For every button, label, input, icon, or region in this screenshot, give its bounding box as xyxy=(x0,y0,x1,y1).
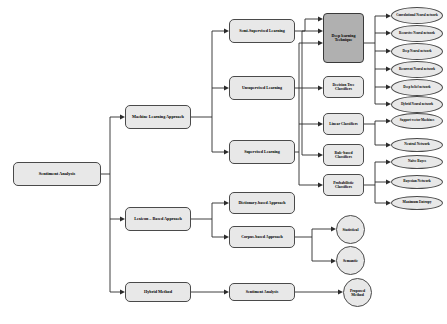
node-label: Machine Learning Approach xyxy=(132,115,184,119)
node-dictionary-based-approach[interactable]: Dictionary-based Approach xyxy=(229,192,295,214)
node-label: Semi-Supervised Learning xyxy=(239,29,284,33)
node-unsupervised-learning[interactable]: Unsupervised Learning xyxy=(229,76,295,100)
node-label: Convolutional Neural network xyxy=(396,14,438,17)
node-semi-supervised-learning[interactable]: Semi-Supervised Learning xyxy=(229,19,295,43)
node-deep-belief-network[interactable]: Deep belief network xyxy=(391,79,443,96)
node-neutral-network[interactable]: Neutral Network xyxy=(391,138,443,152)
node-machine-learning-approach[interactable]: Machine Learning Approach xyxy=(125,105,191,129)
node-label: Dictionary-based Approach xyxy=(238,201,285,205)
node-recursive-neural-network[interactable]: Recursive Neural network xyxy=(391,25,443,42)
node-label: Hybrid Neural network xyxy=(401,103,433,106)
node-label: Support vector Machines xyxy=(400,119,434,122)
node-label: Rule-based Classifiers xyxy=(326,151,361,159)
node-lexicon-based-approach[interactable]: Lexicon – Based Approach xyxy=(125,207,191,231)
node-label: Linear Classifiers xyxy=(329,122,358,126)
node-label: Unsupervised Learning xyxy=(242,86,282,90)
node-label: Deep Neural network xyxy=(402,50,431,53)
node-proposed-method[interactable]: Proposed Method xyxy=(343,278,372,307)
node-support-vector-machines[interactable]: Support vector Machines xyxy=(391,113,443,129)
node-semantic[interactable]: Semantic xyxy=(336,246,365,275)
node-probabilistic-classifiers[interactable]: Probabilistic Classifiers xyxy=(323,174,364,196)
node-label: Naïve Bayes xyxy=(408,160,426,164)
node-corpus-based-approach[interactable]: Corpus-based Approach xyxy=(229,226,295,248)
node-label: Sentiment Analysis xyxy=(39,172,76,177)
node-root-sentiment-analysis[interactable]: Sentiment Analysis xyxy=(13,162,101,186)
node-label: Deep belief network xyxy=(403,86,430,89)
node-label: Recursive Neural network xyxy=(399,32,435,35)
node-label: Corpus-based Approach xyxy=(241,235,283,239)
node-maximum-entropy[interactable]: Maximum Entropy xyxy=(391,196,443,210)
node-rule-based-classifiers[interactable]: Rule-based Classifiers xyxy=(323,144,364,166)
node-label: Neutral Network xyxy=(404,143,429,147)
node-label: Deep learning Technique xyxy=(326,34,361,42)
node-hybrid-neural-network[interactable]: Hybrid Neural network xyxy=(391,96,443,113)
node-recurrent-neural-network[interactable]: Recurrent Neural network xyxy=(391,61,443,78)
node-linear-classifiers[interactable]: Linear Classifiers xyxy=(323,113,364,135)
node-supervised-learning[interactable]: Supervised Learning xyxy=(229,140,295,164)
node-label: Probabilistic Classifiers xyxy=(326,181,361,189)
node-label: Decision Tree Classifiers xyxy=(326,83,361,91)
node-hybrid-sentiment-analysis[interactable]: Sentiment Analysis xyxy=(229,283,295,301)
node-bayesian-network[interactable]: Bayesian Network xyxy=(391,175,443,189)
node-statistical[interactable]: Statistical xyxy=(336,215,365,244)
node-label: Supervised Learning xyxy=(244,150,280,154)
node-label: Sentiment Analysis xyxy=(246,290,279,294)
node-label: Maximum Entropy xyxy=(403,201,432,205)
node-label: Hybrid Method xyxy=(144,290,172,294)
node-label: Statistical xyxy=(342,228,358,232)
node-hybrid-method[interactable]: Hybrid Method xyxy=(125,282,191,302)
node-label: Proposed Method xyxy=(346,289,369,297)
node-label: Recurrent Neural network xyxy=(399,68,435,71)
node-convolutional-neural-network[interactable]: Convolutional Neural network xyxy=(391,7,443,24)
node-label: Semantic xyxy=(343,259,358,263)
node-deep-neural-network[interactable]: Deep Neural network xyxy=(391,43,443,60)
node-deep-learning-technique[interactable]: Deep learning Technique xyxy=(323,13,364,63)
node-decision-tree-classifiers[interactable]: Decision Tree Classifiers xyxy=(323,76,364,98)
node-naive-bayes[interactable]: Naïve Bayes xyxy=(391,155,443,169)
node-label: Bayesian Network xyxy=(403,180,430,184)
node-label: Lexicon – Based Approach xyxy=(134,217,182,221)
